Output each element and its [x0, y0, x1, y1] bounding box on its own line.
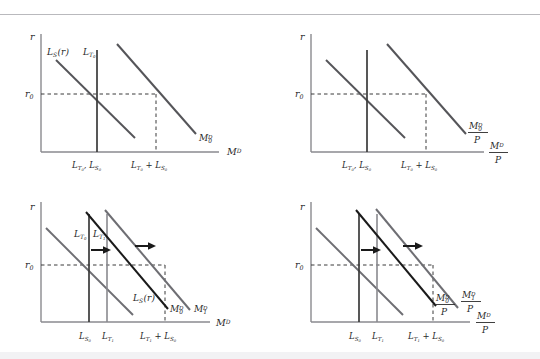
x-axis-label-fraction: MD P [476, 311, 495, 335]
panel-real-money-demand-initial: r r0 MD P M0D P LT0, LS0 LT0 + LS0 [270, 16, 540, 188]
real-money-demand-curve-label: M0D P [468, 121, 488, 145]
x-tick-intersection-right: LT0 + LS0 [400, 160, 438, 172]
y-axis-label: r [30, 201, 36, 212]
shift-arrow-transactions [361, 246, 381, 253]
figure-page: r r0 MD LS(r) LT0 M0D LT0, LS0 LT0 + LS0… [0, 0, 540, 359]
y-axis-label: r [300, 31, 306, 42]
y-tick-r0-label: r0 [295, 259, 304, 271]
x-axis-label: MD [226, 146, 242, 157]
x-tick-ls0: LS0 [78, 331, 92, 343]
panel-nominal-money-demand-shift: r r0 MD LT0 LT1 LS(r) M0D M1D LS0 LT1 LT… [0, 188, 270, 359]
curve-label-denominator: P [473, 135, 481, 145]
curve0-numerator: M0D [435, 293, 450, 304]
money-demand-curve-0 [86, 212, 168, 309]
curve-label-numerator: M0D [468, 121, 483, 132]
top-divider-rule [0, 14, 540, 15]
y-axis-label: r [300, 201, 306, 212]
speculative-demand-curve [56, 60, 135, 138]
total-money-demand-curve-label: M0D [198, 133, 213, 144]
x-axis-label: MD [215, 317, 231, 328]
x-tick-ls0: LS0 [348, 331, 362, 343]
shift-arrow-demand [403, 242, 423, 249]
money-demand-1-label: M1D [193, 304, 208, 315]
panel-real-money-demand-shift: r r0 MD P M0D P M1D P LS0 LT1 LT1 [270, 188, 540, 359]
curve1-denominator: P [466, 304, 474, 314]
y-tick-r0-label: r0 [25, 88, 34, 100]
x-axis-label-numerator: MD [489, 141, 504, 151]
speculative-demand-curve-label: LS(r) [46, 47, 69, 58]
x-tick-intersection-right: LT0 + LS0 [130, 160, 168, 172]
curve1-numerator: M1D [461, 290, 476, 301]
y-tick-r0-label: r0 [295, 88, 304, 100]
money-demand-curve-0 [356, 210, 436, 306]
x-tick-intersection-left: LT0, LS0 [341, 160, 372, 172]
transactions-demand-line-label: LT0 [82, 47, 96, 59]
speculative-demand-curve [326, 60, 405, 138]
shift-arrow-transactions [91, 246, 111, 253]
panel-nominal-money-demand-initial: r r0 MD LS(r) LT0 M0D LT0, LS0 LT0 + LS0 [0, 16, 270, 188]
x-tick-sum: LT1 + LS0 [407, 331, 445, 343]
x-tick-lt1: LT1 [101, 331, 114, 343]
y-tick-r0-label: r0 [25, 259, 34, 271]
transactions-line-0-label: LT0 [73, 229, 87, 241]
y-axis-label: r [30, 31, 36, 42]
x-tick-sum: LT1 + LS0 [139, 331, 177, 343]
real-money-demand-0-label: M0D P [435, 293, 455, 317]
x-axis-label-fraction: MD P [489, 141, 508, 165]
curve0-denominator: P [440, 307, 448, 317]
x-axis-label-numerator: MD [476, 311, 491, 321]
x-tick-intersection-left: LT0, LS0 [71, 160, 102, 172]
x-axis-label-denominator: P [494, 155, 502, 165]
bottom-band [0, 352, 540, 359]
money-demand-0-label: M0D [169, 304, 184, 315]
x-axis-label-denominator: P [481, 325, 489, 335]
transactions-line-1-label: LT1 [92, 229, 105, 241]
speculative-demand-curve-label: LS(r) [132, 293, 155, 304]
x-tick-lt1: LT1 [371, 331, 384, 343]
